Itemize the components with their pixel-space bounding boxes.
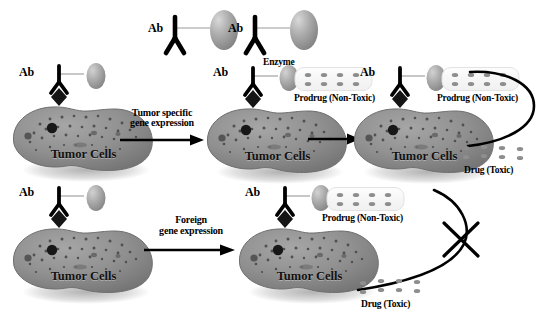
drug-cluster-bottom: Drug (Toxic) bbox=[355, 277, 429, 299]
flow-label-line2: gene expression bbox=[116, 118, 208, 128]
tumor-cells-label: Tumor Cells bbox=[200, 149, 355, 164]
arrow-icon bbox=[142, 241, 240, 265]
antibody-icon bbox=[166, 17, 184, 53]
drug-dots-icon bbox=[355, 277, 429, 299]
free-conjugate-2: Ab bbox=[228, 8, 338, 60]
nucleus-icon bbox=[47, 245, 57, 255]
antibody-enzyme-bottom-left bbox=[6, 182, 136, 226]
enzyme-icon bbox=[87, 63, 106, 89]
diagram-canvas: Ab Ab Ab bbox=[0, 0, 557, 318]
enzyme-icon bbox=[87, 185, 106, 211]
nucleus-icon bbox=[388, 125, 398, 135]
enzyme-icon bbox=[290, 10, 318, 50]
nucleus-icon bbox=[241, 125, 251, 135]
flow-label-line2: gene expression bbox=[142, 226, 240, 236]
drug-label: Drug (Toxic) bbox=[361, 300, 410, 310]
nucleus-icon bbox=[47, 123, 57, 133]
drug-cluster-top: Drug (Toxic) bbox=[458, 142, 532, 164]
arrow-icon bbox=[118, 131, 210, 155]
ab-label: Ab bbox=[148, 22, 163, 34]
conversion-curve-top bbox=[466, 66, 556, 152]
flow-label-line1: Foreign bbox=[142, 215, 240, 225]
tumor-cell-bottom-left: Tumor Cells bbox=[6, 222, 161, 300]
conjugate-graphic bbox=[228, 8, 338, 60]
nucleus-icon bbox=[273, 245, 283, 255]
curved-arrow-icon bbox=[466, 66, 556, 152]
antibody-enzyme-top-left bbox=[6, 62, 136, 102]
tumor-cells-label: Tumor Cells bbox=[6, 269, 161, 284]
ab-label: Ab bbox=[228, 22, 243, 34]
antibody-icon bbox=[246, 17, 264, 53]
cell-graphic bbox=[6, 222, 161, 300]
drug-dots-icon bbox=[458, 142, 532, 164]
drug-label: Drug (Toxic) bbox=[464, 166, 513, 176]
